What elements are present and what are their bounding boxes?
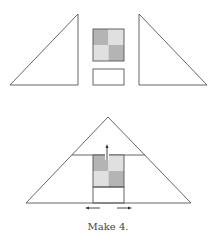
assembled-triangle bbox=[26, 117, 191, 210]
right-arrow-icon bbox=[117, 207, 132, 210]
right-triangle-piece bbox=[139, 14, 207, 85]
checkered-square-piece bbox=[93, 29, 124, 61]
diagram-canvas bbox=[0, 0, 216, 237]
caption: Make 4. bbox=[0, 221, 216, 232]
up-arrow-icon bbox=[105, 144, 109, 160]
left-triangle-piece bbox=[10, 14, 78, 85]
rectangle-piece bbox=[93, 69, 124, 85]
left-arrow-icon bbox=[85, 207, 100, 210]
